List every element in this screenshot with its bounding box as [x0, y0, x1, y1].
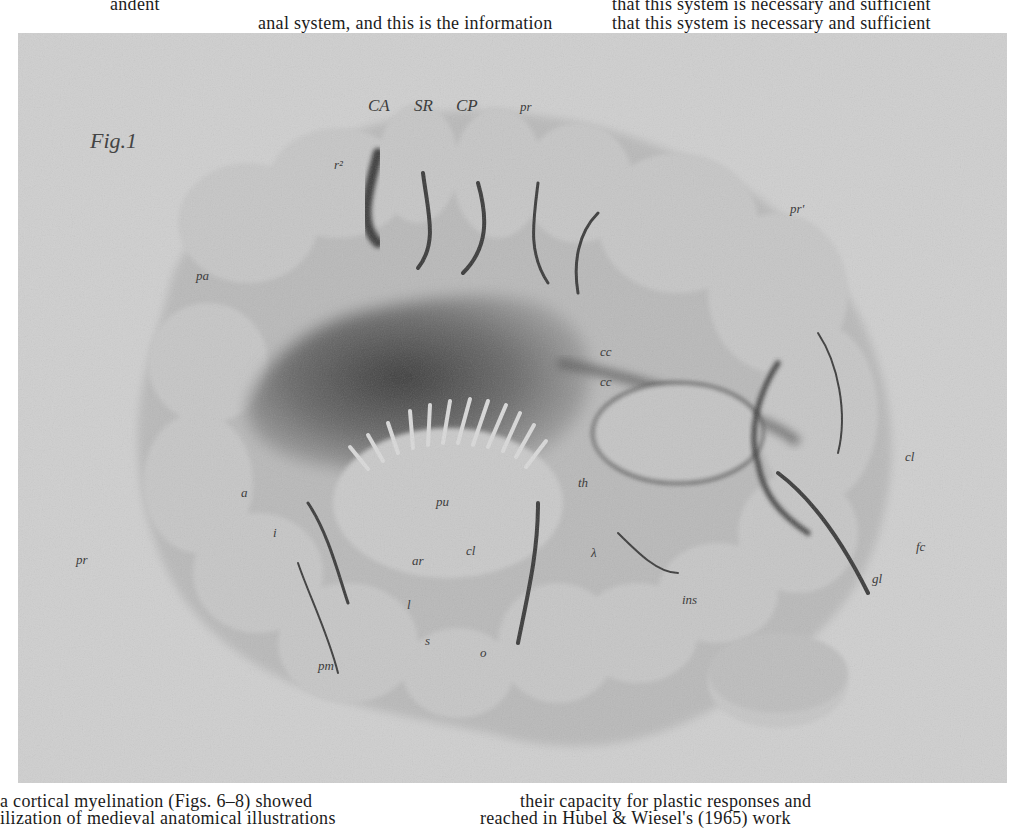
figure-label-ar: ar — [412, 554, 424, 568]
figure-label-CP: CP — [456, 97, 478, 115]
figure-label-i: i — [273, 526, 277, 540]
figure-title: Fig.1 — [90, 129, 137, 153]
figure-label-CA: CA — [368, 97, 390, 115]
brain-section-illustration — [18, 33, 1007, 783]
figure-label-th: th — [578, 476, 588, 490]
text-line: andent — [110, 0, 160, 14]
figure-label-r2: r² — [334, 158, 343, 172]
figure-label-a: a — [241, 486, 248, 500]
text-line: ilization of medieval anatomical illustr… — [0, 808, 336, 828]
figure-label-ins: ins — [682, 593, 697, 607]
text-line: that this system is necessary and suffic… — [612, 13, 931, 33]
figure-plate: CASRCPprpr'r²paccccclaputhiprarclλfcglli… — [18, 33, 1007, 783]
figure-label-pr-left: pr — [76, 553, 88, 567]
text-line: reached in Hubel & Wiesel's (1965) work — [480, 808, 791, 828]
figure-label-cc-2: cc — [600, 375, 612, 389]
figure-label-l: l — [407, 598, 411, 612]
figure-label-pm: pm — [318, 659, 334, 673]
text-line: anal system, and this is the information — [258, 13, 552, 33]
figure-label-s: s — [425, 634, 430, 648]
figure-label-cc-1: cc — [600, 345, 612, 359]
figure-label-pa: pa — [196, 269, 209, 283]
figure-label-pu: pu — [436, 495, 449, 509]
figure-label-gl: gl — [872, 572, 882, 586]
figure-label-fc: fc — [916, 540, 925, 554]
figure-label-cl: cl — [905, 450, 914, 464]
text-line: that this system is necessary and suffic… — [612, 0, 931, 14]
figure-label-o: o — [480, 646, 487, 660]
figure-label-lambda: λ — [591, 546, 597, 560]
figure-label-pr-prime: pr' — [790, 202, 804, 216]
figure-label-pr: pr — [520, 100, 532, 114]
figure-label-cl-2: cl — [466, 544, 475, 558]
figure-label-SR: SR — [414, 97, 433, 115]
